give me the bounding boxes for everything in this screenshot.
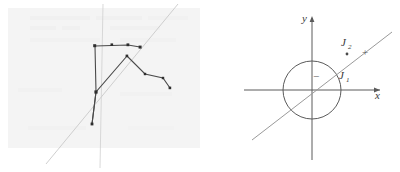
- y-axis-label: y: [301, 12, 307, 24]
- unit-circle-diagram: x y J 1 J 2 + −: [208, 0, 400, 172]
- j1-label-group: J 1: [339, 69, 350, 84]
- j1-subscript: 1: [346, 76, 350, 84]
- data-point: [93, 44, 96, 47]
- plus-sign-label: +: [362, 46, 368, 58]
- circle-diagram-svg: x y J 1 J 2 + −: [208, 0, 400, 172]
- x-axis-label: x: [374, 89, 380, 101]
- data-point: [139, 46, 142, 49]
- line-point-marker: [346, 53, 349, 56]
- scanned-plot-svg: [0, 0, 208, 172]
- j2-label: J: [341, 36, 347, 48]
- oblique-line: [252, 32, 392, 140]
- j2-subscript: 2: [348, 43, 352, 51]
- data-point: [162, 77, 164, 79]
- data-point: [126, 55, 129, 58]
- data-point: [127, 43, 130, 46]
- data-point: [94, 90, 97, 93]
- j2-label-group: J 2: [341, 36, 352, 51]
- data-point: [169, 87, 172, 90]
- j1-label: J: [339, 69, 345, 81]
- data-point: [111, 43, 114, 46]
- figure-canvas: x y J 1 J 2 + −: [0, 0, 400, 172]
- y-axis-arrowhead: [310, 16, 315, 22]
- minus-sign-label: −: [313, 70, 319, 82]
- data-point: [144, 73, 146, 75]
- data-point: [91, 123, 94, 126]
- scanned-plot-panel: [0, 0, 208, 172]
- axes-group: [244, 18, 380, 160]
